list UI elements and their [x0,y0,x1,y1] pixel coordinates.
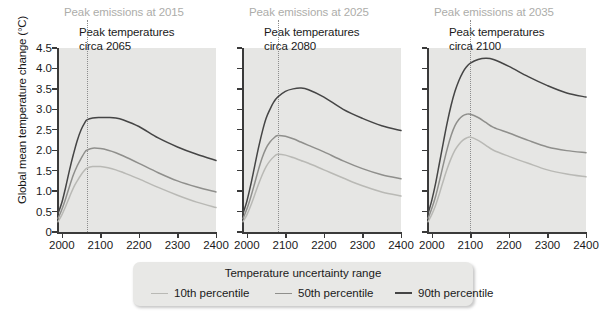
panel-curves [0,0,596,250]
legend-swatch-line [151,293,168,294]
legend-item: 50th percentile [275,284,373,302]
legend-label: 10th percentile [174,287,249,299]
legend-items: 10th percentile50th percentile90th perce… [133,284,473,304]
chart-panel: Peak emissions at 2035Peak temperaturesc… [0,0,596,250]
legend-item: 90th percentile [395,284,493,302]
legend-label: 50th percentile [298,287,373,299]
legend-swatch-line [275,293,292,294]
legend-title: Temperature uncertainty range [133,267,473,279]
legend-item: 10th percentile [151,284,249,302]
series-line [428,114,586,219]
legend: Temperature uncertainty range 10th perce… [133,262,473,306]
legend-label: 90th percentile [418,287,493,299]
legend-swatch-line [395,292,412,294]
